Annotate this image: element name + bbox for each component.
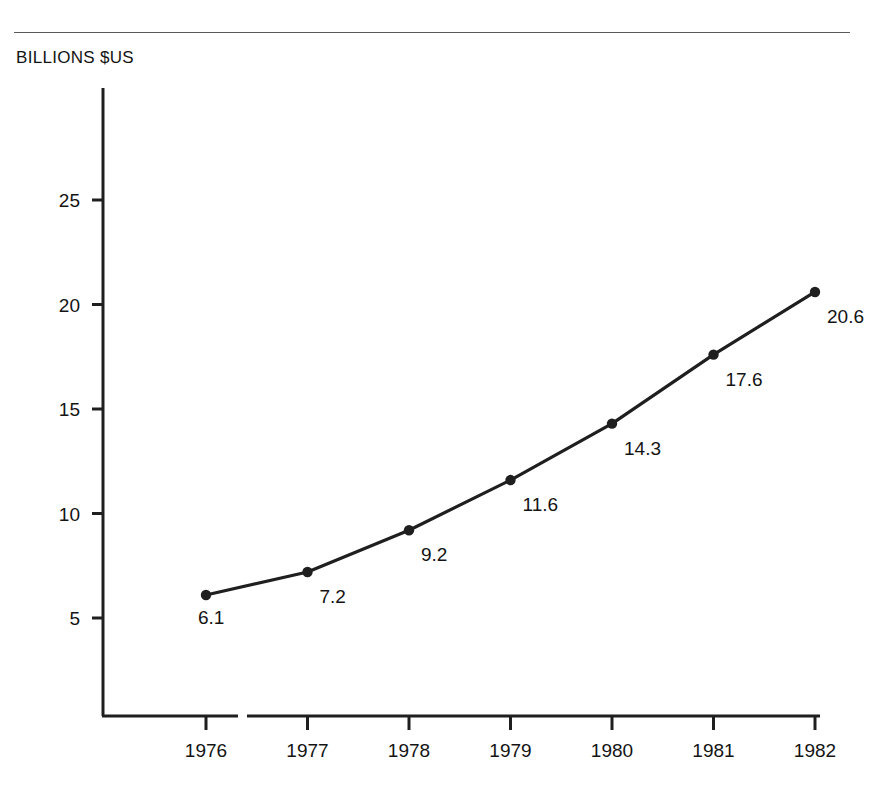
- y-tick-label-10: 10: [59, 504, 80, 525]
- chart-svg: 510152025 1976197719781979198019811982 6…: [0, 0, 885, 800]
- data-point-1982: [810, 287, 820, 297]
- data-point-markers: [201, 287, 820, 600]
- data-series-line: [206, 292, 815, 595]
- x-tick-label-1979: 1979: [489, 740, 531, 761]
- y-tick-label-15: 15: [59, 399, 80, 420]
- y-tick-label-5: 5: [69, 608, 80, 629]
- x-tick-label-1976: 1976: [185, 740, 227, 761]
- data-point-1977: [302, 567, 312, 577]
- x-tick-label-1981: 1981: [692, 740, 734, 761]
- x-tick-label-1982: 1982: [794, 740, 836, 761]
- data-point-1979: [505, 475, 515, 485]
- x-tick-label-1980: 1980: [591, 740, 633, 761]
- data-label-1980: 14.3: [624, 438, 661, 459]
- data-label-1982: 20.6: [827, 306, 864, 327]
- x-axis-tick-labels: 1976197719781979198019811982: [185, 740, 836, 761]
- data-point-1981: [708, 349, 718, 359]
- chart-page: BILLIONS $US 510152025 19761977197819791…: [0, 0, 885, 800]
- y-tick-label-20: 20: [59, 295, 80, 316]
- y-tick-label-25: 25: [59, 190, 80, 211]
- data-point-1980: [607, 418, 617, 428]
- x-tick-label-1978: 1978: [388, 740, 430, 761]
- x-tick-label-1977: 1977: [286, 740, 328, 761]
- data-point-1976: [201, 590, 211, 600]
- data-label-1981: 17.6: [726, 369, 763, 390]
- data-label-1979: 11.6: [523, 494, 559, 515]
- data-label-1976: 6.1: [198, 607, 224, 628]
- data-point-1978: [404, 525, 414, 535]
- data-label-1977: 7.2: [320, 586, 346, 607]
- data-label-1978: 9.2: [421, 544, 447, 565]
- x-axis-ticks: [206, 716, 815, 730]
- line-chart: 510152025 1976197719781979198019811982 6…: [0, 0, 885, 800]
- y-axis-tick-labels: 510152025: [59, 190, 80, 629]
